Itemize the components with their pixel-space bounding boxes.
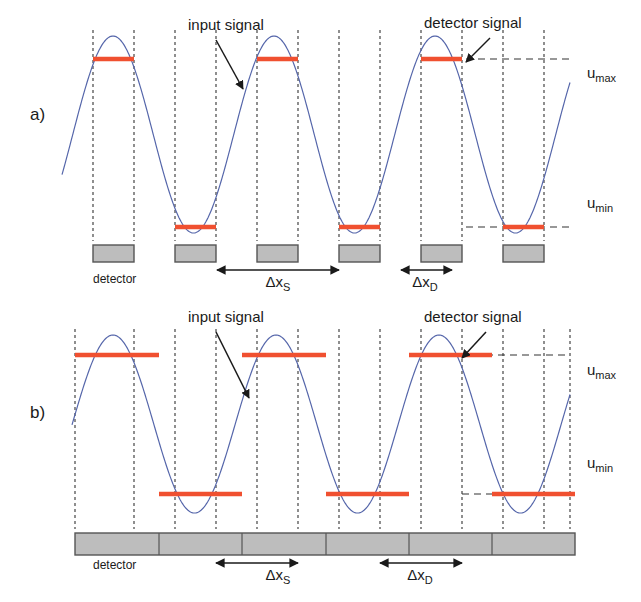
panel-a-detector-caption: detector <box>93 272 136 286</box>
input-signal-curve <box>62 36 570 233</box>
detector-block <box>503 245 544 262</box>
detector-block <box>339 245 380 262</box>
detector-block <box>93 245 134 262</box>
panel-a-umin-label: umin <box>587 194 613 214</box>
panel-b-level-dashed-lines <box>462 355 570 494</box>
detector-block <box>421 245 462 262</box>
input-signal-curve <box>72 335 570 513</box>
panel-a-detector-signal-bars <box>93 59 544 227</box>
detector-block <box>175 245 216 262</box>
panel-b-input-signal-label: input signal <box>188 308 264 325</box>
panel-b-input-signal-wave <box>72 335 570 513</box>
panel-b-delta-xs-label: ΔxS <box>266 566 291 586</box>
panel-a-detector-blocks <box>93 245 544 262</box>
panel-a-umax-label: umax <box>587 64 617 84</box>
input-signal-pointer-arrow <box>216 40 243 89</box>
panel-a-input-signal-wave <box>62 36 570 233</box>
panel-a-dashed-verticals <box>93 30 544 241</box>
input-signal-pointer-arrow <box>216 332 249 398</box>
panel-b-label: b) <box>30 403 45 422</box>
panel-b-umin-label: umin <box>587 454 613 474</box>
panel-b: b) input signal detector signal detector… <box>30 308 617 586</box>
diagram-canvas: a) input signal detector signal detector… <box>0 0 641 602</box>
detector-block <box>257 245 298 262</box>
panel-b-dashed-verticals <box>75 329 570 529</box>
detector-bar-strip <box>75 533 575 555</box>
figure-container: a) input signal detector signal detector… <box>0 0 641 602</box>
panel-a-annotation-arrows <box>216 38 490 89</box>
panel-b-delta-xd-label: ΔxD <box>407 566 433 586</box>
panel-a-input-signal-label: input signal <box>188 16 264 33</box>
panel-a: a) input signal detector signal detector… <box>30 14 617 293</box>
panel-b-detector-bar <box>75 533 575 555</box>
panel-b-umax-label: umax <box>587 361 617 381</box>
panel-b-detector-caption: detector <box>93 558 136 572</box>
panel-a-delta-xd-label: ΔxD <box>412 273 438 293</box>
panel-a-level-dashed-lines <box>466 59 570 227</box>
panel-a-label: a) <box>30 105 45 124</box>
panel-b-detector-signal-label: detector signal <box>424 308 522 325</box>
panel-b-detector-signal-bars <box>75 355 575 494</box>
panel-a-delta-xs-label: ΔxS <box>266 273 291 293</box>
panel-a-detector-signal-label: detector signal <box>424 14 522 31</box>
